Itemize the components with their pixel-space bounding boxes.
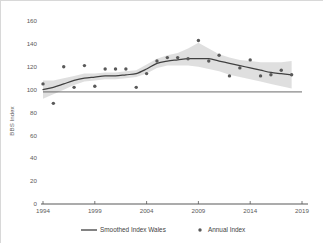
- x-tick-label: 1994: [36, 207, 50, 214]
- annual-index-point: [280, 68, 283, 71]
- annual-index-point: [207, 59, 210, 62]
- bbs-index-chart: 020406080100120140160 199419992004200920…: [1, 1, 323, 243]
- annual-index-point: [103, 67, 106, 70]
- annual-index-point: [41, 82, 44, 85]
- annual-index-point: [62, 65, 65, 68]
- annual-index-point: [269, 73, 272, 76]
- annual-index-point: [93, 84, 96, 87]
- annual-index-point: [249, 58, 252, 61]
- annual-index-point: [145, 72, 148, 75]
- y-axis-title: BBS Index: [8, 105, 15, 135]
- x-tick-label: 1999: [88, 207, 102, 214]
- y-tick-label: 120: [27, 63, 38, 70]
- annual-index-point: [114, 67, 117, 70]
- annual-index-point: [166, 56, 169, 59]
- annual-index-point: [72, 86, 75, 89]
- annual-index-point: [135, 86, 138, 89]
- annual-index-point: [83, 64, 86, 67]
- annual-index-point: [197, 39, 200, 42]
- y-tick-label: 20: [30, 177, 37, 184]
- annual-index-point: [228, 74, 231, 77]
- chart-figure: 020406080100120140160 199419992004200920…: [0, 0, 323, 243]
- y-tick-label: 80: [30, 109, 37, 116]
- y-tick-label: 140: [27, 40, 38, 47]
- annual-index-point: [290, 73, 293, 76]
- y-tick-label: 40: [30, 154, 37, 161]
- legend-label-smoothed: Smoothed Index Wales: [100, 226, 166, 233]
- annual-index-point: [176, 56, 179, 59]
- y-tick-label: 100: [27, 86, 38, 93]
- annual-index-point: [155, 59, 158, 62]
- annual-index-point: [186, 57, 189, 60]
- annual-index-point: [217, 54, 220, 57]
- x-tick-label: 2004: [140, 207, 154, 214]
- x-tick-label: 2009: [192, 207, 206, 214]
- annual-index-point: [52, 102, 55, 105]
- legend-label-annual: Annual Index: [208, 226, 246, 233]
- annual-index-point: [259, 74, 262, 77]
- chart-legend: Smoothed Index WalesAnnual Index: [81, 226, 246, 233]
- y-tick-label: 160: [27, 17, 38, 24]
- annual-index-point: [124, 67, 127, 70]
- annual-index-point: [238, 66, 241, 69]
- legend-dot-swatch: [198, 228, 201, 231]
- x-tick-label: 2019: [295, 207, 309, 214]
- y-tick-label: 60: [30, 132, 37, 139]
- x-tick-label: 2014: [243, 207, 257, 214]
